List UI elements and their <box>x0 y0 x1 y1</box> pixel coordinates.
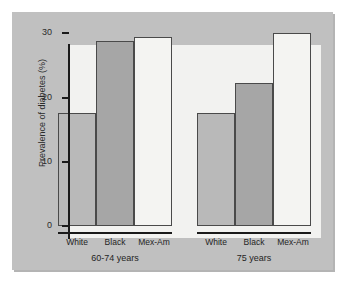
cat-label-g2-mexam: Mex-Am <box>271 237 315 247</box>
cat-label-g1-white: White <box>58 237 96 247</box>
bar-g1-black <box>96 41 134 226</box>
cat-label-g2-white: White <box>197 237 235 247</box>
cat-label-g1-mexam: Mex-Am <box>132 237 176 247</box>
figure-container: 0 10 20 30 Prevalence of diabetes (%) Wh… <box>0 0 345 281</box>
y-tick-label-0: 0 <box>26 220 52 230</box>
y-tick-0 <box>62 225 69 227</box>
bar-g1-white <box>58 113 96 226</box>
y-tick-label-30: 30 <box>26 27 52 37</box>
cat-label-g2-black: Black <box>235 237 273 247</box>
group-rule-2 <box>197 232 311 234</box>
bar-g2-black <box>235 83 273 227</box>
y-tick-30 <box>62 32 69 34</box>
y-axis-title: Prevalence of diabetes (%) <box>37 38 47 188</box>
bar-g2-mexam <box>273 33 311 226</box>
group-rule-1 <box>58 232 172 234</box>
y-tick-10 <box>62 161 69 163</box>
bar-g2-white <box>197 113 235 226</box>
group-label-1: 60-74 years <box>52 253 178 263</box>
chart-panel: 0 10 20 30 Prevalence of diabetes (%) Wh… <box>12 12 333 270</box>
group-label-2: 75 years <box>191 253 317 263</box>
bar-g1-mexam <box>134 37 172 226</box>
y-axis-line <box>68 44 70 239</box>
cat-label-g1-black: Black <box>96 237 134 247</box>
y-tick-20 <box>62 97 69 99</box>
